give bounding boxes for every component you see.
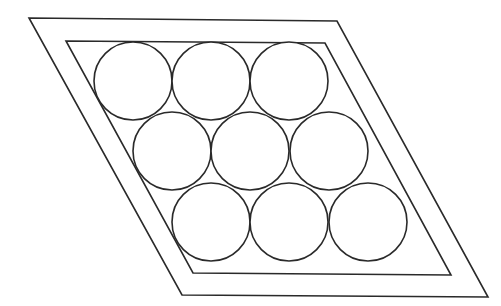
circle-middle-1	[133, 112, 211, 190]
circle-middle-2	[211, 112, 289, 190]
circle-bottom-3	[329, 183, 407, 261]
circle-bottom-2	[250, 183, 328, 261]
circle-top-1	[94, 42, 172, 120]
circle-top-3	[250, 42, 328, 120]
circle-packing-diagram	[0, 0, 501, 306]
circle-bottom-1	[172, 183, 250, 261]
circle-middle-3	[290, 112, 368, 190]
circle-group	[94, 42, 407, 261]
circle-top-2	[172, 42, 250, 120]
